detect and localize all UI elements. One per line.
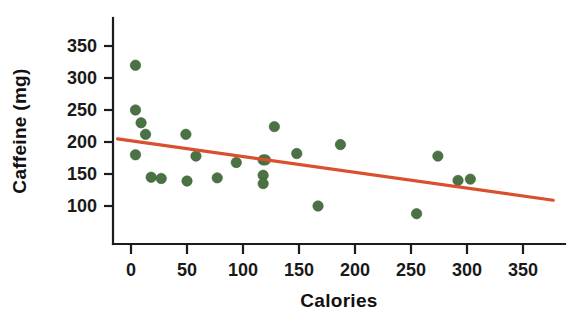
x-axis-group: 050100150200250300350: [113, 244, 565, 280]
data-point: [182, 176, 192, 186]
y-axis-title: Caffeine (mg): [9, 68, 30, 193]
data-point: [453, 175, 463, 185]
y-tick-label: 150: [67, 164, 97, 184]
y-tick-label: 350: [67, 36, 97, 56]
data-point: [231, 157, 241, 167]
data-point: [130, 60, 140, 70]
data-point: [269, 121, 279, 131]
x-axis-title: Calories: [300, 290, 377, 311]
data-point: [292, 148, 302, 158]
data-point: [156, 173, 166, 183]
data-point: [212, 173, 222, 183]
data-point: [313, 201, 323, 211]
data-point: [130, 105, 140, 115]
data-point: [433, 151, 443, 161]
data-point: [181, 129, 191, 139]
x-tick-label: 150: [284, 260, 314, 280]
y-tick-group: 100150200250300350: [67, 36, 113, 216]
y-axis-group: 100150200250300350: [67, 18, 113, 244]
x-tick-label: 350: [508, 260, 538, 280]
scatter-chart-figure: 100150200250300350 050100150200250300350…: [0, 0, 581, 321]
data-point: [146, 172, 156, 182]
x-tick-group: 050100150200250300350: [126, 244, 538, 280]
x-tick-label: 200: [340, 260, 370, 280]
y-tick-label: 100: [67, 196, 97, 216]
data-point: [258, 178, 268, 188]
x-tick-label: 50: [177, 260, 197, 280]
data-point: [130, 150, 140, 160]
x-tick-label: 100: [228, 260, 258, 280]
x-tick-label: 300: [452, 260, 482, 280]
data-point: [140, 129, 150, 139]
x-tick-label: 250: [396, 260, 426, 280]
data-point: [335, 139, 345, 149]
y-tick-label: 250: [67, 100, 97, 120]
data-points-group: [130, 60, 475, 219]
y-tick-label: 200: [67, 132, 97, 152]
trend-line: [118, 139, 554, 200]
y-tick-label: 300: [67, 68, 97, 88]
data-point: [465, 174, 475, 184]
data-point: [136, 118, 146, 128]
data-point: [411, 208, 421, 218]
x-tick-label: 0: [126, 260, 136, 280]
data-point: [191, 151, 201, 161]
chart-canvas: 100150200250300350 050100150200250300350…: [0, 0, 581, 321]
